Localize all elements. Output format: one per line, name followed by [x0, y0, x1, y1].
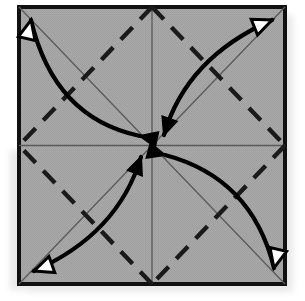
origami-diagram-figure [0, 0, 305, 301]
origami-diagram-canvas [0, 0, 305, 301]
